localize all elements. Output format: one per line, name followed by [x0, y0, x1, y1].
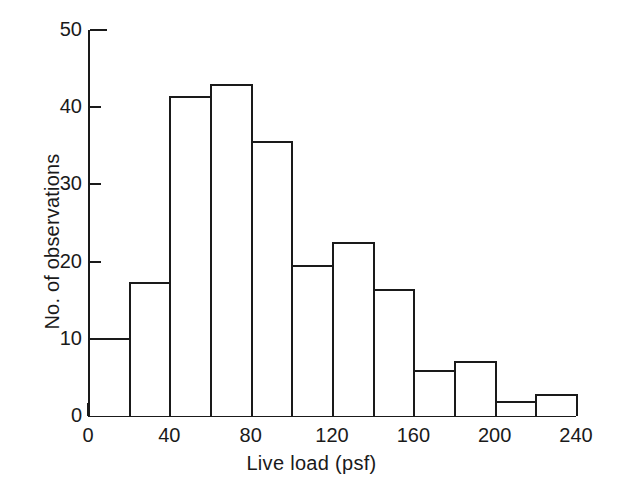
- histogram-bar: [495, 401, 538, 416]
- histogram-chart: No. of observations 01020304050 04080120…: [0, 0, 623, 486]
- histogram-bar: [413, 370, 456, 416]
- histogram-bar: [251, 141, 294, 416]
- histogram-bar: [332, 242, 375, 416]
- histogram-bar: [373, 289, 416, 416]
- histogram-bar: [291, 265, 334, 416]
- histogram-bar: [454, 361, 497, 416]
- histogram-bar: [88, 338, 131, 416]
- bars-layer: [0, 0, 623, 486]
- x-axis-title: Live load (psf): [0, 452, 623, 475]
- histogram-bar: [210, 84, 253, 416]
- histogram-bar: [169, 96, 212, 416]
- histogram-bar: [129, 282, 172, 416]
- histogram-bar: [535, 394, 578, 416]
